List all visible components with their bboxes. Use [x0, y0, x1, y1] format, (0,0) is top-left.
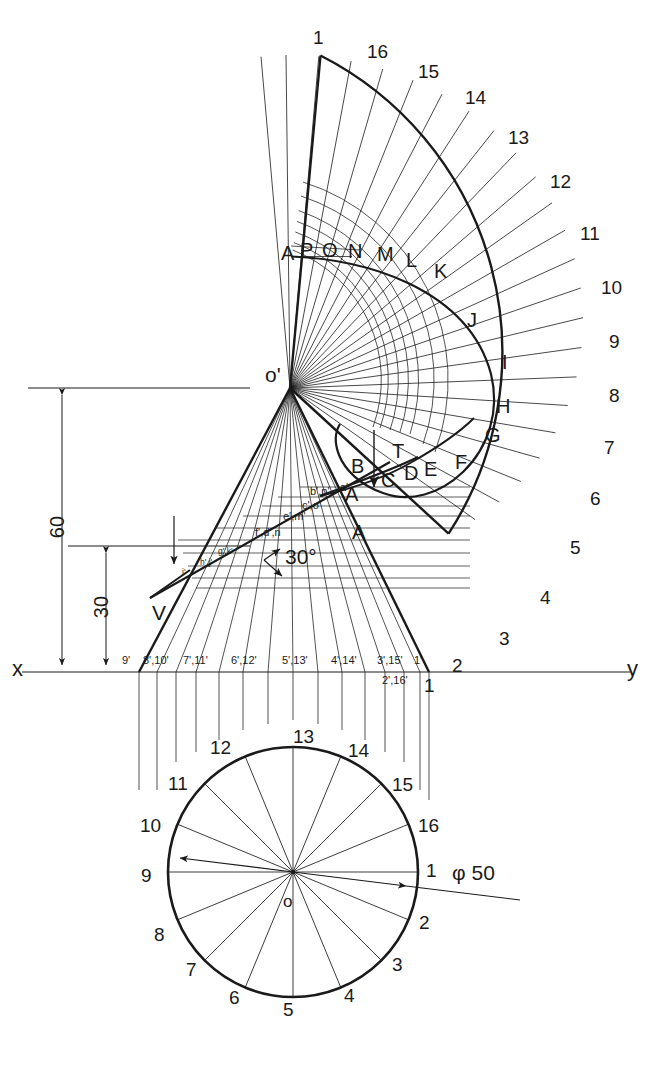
development-point-T: T	[392, 441, 404, 461]
engineering-drawing-svg	[0, 0, 657, 1068]
development-number-7: 7	[604, 438, 615, 457]
section-point-i: i'	[182, 568, 186, 577]
front-view-cone-outline	[139, 388, 429, 672]
gl-label-8-10: 8',10'	[143, 655, 169, 666]
development-point-C: C	[381, 470, 395, 490]
section-point-b-p: b',p'	[310, 486, 330, 497]
topview-number-15: 15	[392, 775, 413, 794]
section-point-g-k: g',k'	[218, 547, 233, 556]
section-point-e-m: e',m'	[283, 511, 306, 522]
development-number-16: 16	[367, 42, 388, 61]
topview-number-4: 4	[344, 986, 355, 1005]
topview-number-12: 12	[210, 738, 231, 757]
topview-center-label: o	[283, 893, 292, 910]
gl-label-2-16: 2',16'	[382, 675, 408, 686]
topview-number-8: 8	[154, 925, 165, 944]
development-point-F: F	[455, 452, 467, 472]
section-plane-label-V: V	[152, 602, 166, 623]
gl-label-1: 1'	[414, 655, 422, 666]
gl-label-6-12: 6',12'	[231, 655, 257, 666]
gl-label-9: 9'	[122, 655, 130, 666]
gl-label-7-11: 7',11'	[183, 655, 208, 666]
development-number-12: 12	[550, 172, 571, 191]
development-point-M: M	[377, 244, 394, 264]
development-number-14: 14	[465, 88, 486, 107]
topview-number-13: 13	[293, 727, 314, 746]
development-number-5: 5	[570, 538, 581, 557]
gl-label-4-14: 4',14'	[331, 655, 357, 666]
topview-number-10: 10	[140, 816, 161, 835]
development-number-3: 3	[499, 629, 510, 648]
development-number-8: 8	[609, 386, 620, 405]
axis-label-x: x	[12, 658, 23, 680]
development-point-N: N	[348, 241, 362, 261]
gl-label-base-1: 1	[424, 676, 435, 695]
angle-30-label: 30°	[285, 546, 317, 567]
development-number-1-top: 1	[313, 28, 324, 47]
development-number-15: 15	[418, 62, 439, 81]
topview-number-16: 16	[418, 816, 439, 835]
apex-label-front-view: o'	[265, 364, 281, 385]
topview-number-1: 1	[426, 861, 437, 880]
gl-label-3-15: 3',15'	[377, 655, 403, 666]
development-number-13: 13	[508, 128, 529, 147]
drawing-canvas: 1 16 15 14 13 12 11 10 9 8 7 6 5 4 3 2 A…	[0, 0, 657, 1068]
diameter-label: φ 50	[452, 862, 495, 883]
development-number-4: 4	[540, 588, 551, 607]
topview-number-5: 5	[283, 1000, 294, 1019]
page-caption	[0, 1055, 657, 1068]
topview-number-7: 7	[186, 960, 197, 979]
dimension-60-text: 60	[47, 516, 67, 538]
development-point-A: A	[281, 243, 294, 263]
development-point-H: H	[496, 396, 510, 416]
front-view-point-A: A	[352, 522, 365, 542]
topview-number-11: 11	[168, 774, 188, 793]
dimension-30-text: 30	[91, 596, 111, 618]
development-point-K: K	[434, 261, 447, 281]
development-point-O: O	[322, 240, 338, 260]
development-point-I: I	[502, 352, 508, 372]
development-point-L: L	[406, 250, 417, 270]
section-point-h-j: h',j'	[200, 558, 212, 567]
top-view-center-point	[291, 870, 295, 874]
development-number-6: 6	[590, 489, 601, 508]
topview-number-6: 6	[229, 988, 240, 1007]
development-point-E: E	[424, 459, 437, 479]
topview-number-3: 3	[392, 955, 403, 974]
topview-number-2: 2	[419, 913, 430, 932]
development-number-2: 2	[452, 656, 463, 675]
topview-number-14: 14	[348, 741, 369, 760]
development-number-11: 11	[580, 224, 600, 243]
development-point-B: B	[351, 456, 364, 476]
development-point-D: D	[404, 463, 418, 483]
section-point-f-d-n: f',d',n	[255, 527, 281, 538]
axis-label-y: y	[627, 658, 638, 680]
gl-label-5-13: 5',13'	[282, 655, 308, 666]
development-point-P: P	[300, 240, 313, 260]
topview-number-9: 9	[141, 866, 152, 885]
development-number-10: 10	[601, 278, 622, 297]
development-point-G: G	[485, 425, 501, 445]
development-number-9: 9	[609, 332, 620, 351]
section-point-a: a'	[340, 482, 348, 493]
development-point-J: J	[467, 310, 477, 330]
